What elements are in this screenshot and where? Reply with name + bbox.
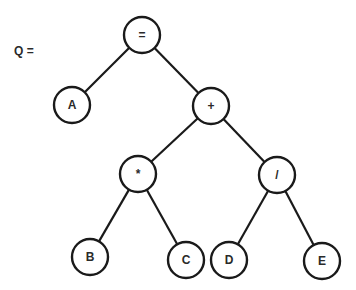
tree-node-mul: * [120, 156, 156, 192]
edge-mul-C [147, 190, 177, 245]
node-label: A [68, 98, 77, 112]
tree-node-eq: = [124, 17, 160, 53]
edge-div-E [285, 191, 313, 245]
node-label: B [86, 250, 95, 264]
edge-plus-div [223, 119, 264, 162]
tree-node-C: C [168, 242, 204, 278]
edge-eq-A [85, 48, 130, 93]
expression-tree: =A+*/BCDE [0, 0, 356, 290]
tree-node-E: E [304, 243, 340, 279]
edge-plus-mul [151, 118, 198, 161]
node-label: = [138, 28, 145, 42]
tree-node-plus: + [193, 88, 229, 124]
node-label: C [182, 253, 191, 267]
edge-eq-plus [155, 48, 199, 93]
edge-mul-B [99, 190, 129, 242]
node-label: + [207, 99, 214, 113]
node-label: D [225, 253, 234, 267]
node-label: E [318, 254, 326, 268]
tree-node-div: / [259, 157, 295, 193]
node-label: * [136, 167, 141, 181]
tree-node-A: A [54, 87, 90, 123]
tree-node-B: B [72, 239, 108, 275]
tree-node-D: D [211, 242, 247, 278]
edge-div-D [238, 191, 268, 245]
